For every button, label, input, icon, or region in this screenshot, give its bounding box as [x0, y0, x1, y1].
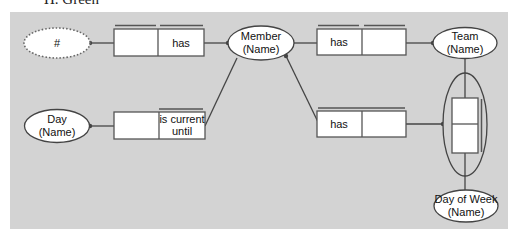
fact-type-1[interactable]: has [114, 26, 204, 57]
entity-dayofweek-sublabel: (Name) [448, 206, 485, 218]
entity-dayofweek-label: Day of Week [435, 193, 498, 205]
entity-member[interactable]: Member (Name) [228, 26, 294, 60]
entity-member-sublabel: (Name) [243, 43, 280, 55]
orm-diagram: # Member (Name) Team (Name) Day (Name) D… [0, 0, 519, 238]
connector-member-f3 [205, 58, 237, 126]
entity-hash[interactable]: # [24, 28, 90, 58]
entity-team[interactable]: Team (Name) [433, 28, 497, 59]
fact-type-3[interactable]: is current until [114, 109, 205, 139]
entity-day-of-week[interactable]: Day of Week (Name) [434, 190, 498, 222]
entity-day[interactable]: Day (Name) [25, 110, 90, 143]
role-label: has [330, 118, 348, 130]
connector-member-f4 [286, 56, 318, 122]
fact-type-2[interactable]: has [317, 26, 406, 56]
entity-team-label: Team [452, 30, 479, 42]
entity-day-sublabel: (Name) [39, 126, 76, 138]
fact-type-4[interactable]: has [317, 108, 406, 137]
fact-type-5-nested[interactable] [443, 73, 487, 176]
entity-day-label: Day [47, 113, 67, 125]
role-label: has [172, 37, 190, 49]
role-label: has [330, 36, 348, 48]
role-label: is current [159, 113, 204, 125]
entity-hash-label: # [54, 37, 61, 49]
role-label-line2: until [172, 125, 192, 137]
entity-member-label: Member [241, 30, 282, 42]
entity-team-sublabel: (Name) [447, 43, 484, 55]
